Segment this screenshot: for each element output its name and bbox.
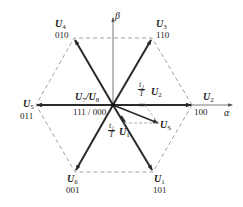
zero-vector-code: 111 / 000 <box>73 108 106 117</box>
us-label: US <box>160 120 171 132</box>
space-vector-diagram: β α U4 010 U3 110 U2 100 U5 011 U6 001 U… <box>0 0 243 207</box>
vector-u3 <box>113 40 151 105</box>
u4-code: 010 <box>55 31 69 40</box>
zero-vector-label: U7/U8 <box>75 92 99 104</box>
u2-code: 100 <box>194 108 208 117</box>
u3-code: 110 <box>156 31 169 40</box>
alpha-axis-label: α <box>224 108 229 118</box>
beta-axis-label: β <box>115 11 120 21</box>
t2-over-t-fraction: t₂ T <box>138 81 145 98</box>
t2-u2-label: U2 <box>151 87 162 99</box>
u2-label: U2 <box>203 92 214 104</box>
t1-over-t-fraction: t₁ T <box>108 122 115 139</box>
origin-point <box>111 103 115 107</box>
t1-u1-label: U1 <box>119 127 130 139</box>
u5-label: U5 <box>23 99 34 111</box>
u6-code: 001 <box>66 186 80 195</box>
u5-code: 011 <box>20 112 33 121</box>
u1-code: 101 <box>153 186 167 195</box>
